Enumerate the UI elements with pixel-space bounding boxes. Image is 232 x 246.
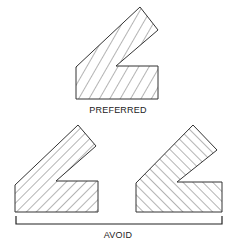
avoid-label: AVOID xyxy=(104,230,132,240)
avoid-bracket xyxy=(16,216,222,224)
avoid-section-right xyxy=(136,125,222,212)
diagram-canvas xyxy=(0,0,232,246)
avoid-section-left xyxy=(15,125,98,212)
preferred-label: PREFERRED xyxy=(89,105,146,115)
preferred-section xyxy=(76,7,158,99)
